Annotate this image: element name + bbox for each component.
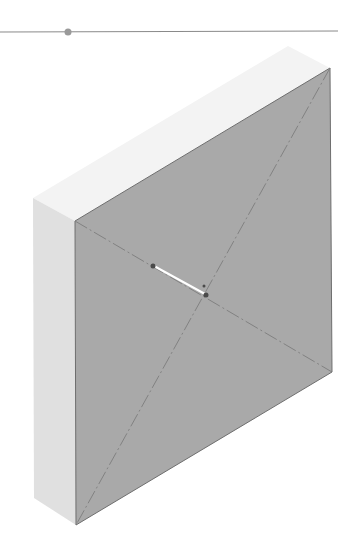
3d-viewport[interactable] — [0, 0, 350, 547]
slider-track[interactable] — [0, 31, 338, 32]
box-model[interactable] — [33, 46, 332, 525]
slider-handle[interactable] — [65, 29, 72, 36]
box-left-face[interactable] — [33, 198, 76, 525]
slider[interactable] — [0, 29, 338, 36]
center-point-marker[interactable] — [203, 285, 206, 288]
start-point-marker[interactable] — [151, 264, 156, 269]
end-point-marker[interactable] — [204, 293, 209, 298]
